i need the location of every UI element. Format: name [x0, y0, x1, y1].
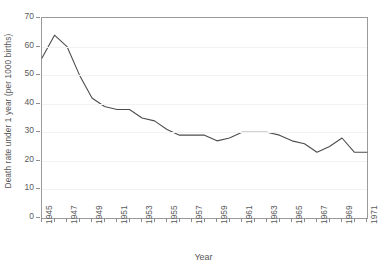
y-tick-label: 30 [14, 126, 34, 135]
y-tick-mark [36, 217, 40, 218]
gridline [42, 47, 367, 48]
y-tick-label: 70 [14, 12, 34, 21]
x-axis-title: Year [41, 252, 366, 262]
x-tick-mark [191, 218, 192, 222]
y-tick-label: 0 [14, 212, 34, 221]
x-tick-label: 1951 [120, 205, 128, 224]
y-tick-mark [36, 131, 40, 132]
x-tick-label: 1961 [245, 205, 253, 224]
x-tick-label: 1955 [170, 205, 178, 224]
y-tick-label: 10 [14, 183, 34, 192]
x-tick-label: 1959 [220, 205, 228, 224]
x-tick-mark [141, 218, 142, 222]
y-axis-title-label: Death rate under 1 year (per 1000 births… [3, 34, 13, 189]
plot-area [41, 17, 368, 219]
x-tick-mark [266, 218, 267, 222]
x-tick-mark [291, 218, 292, 222]
x-tick-mark [166, 218, 167, 222]
series-line-death-rate [42, 18, 367, 218]
series-polyline [42, 35, 367, 152]
x-tick-mark [341, 218, 342, 222]
gridline [42, 189, 367, 190]
x-tick-label: 1965 [295, 205, 303, 224]
infant-mortality-line-chart: Death rate under 1 year (per 1000 births… [0, 0, 378, 268]
x-tick-label: 1963 [270, 205, 278, 224]
x-tick-mark [41, 218, 42, 222]
x-tick-mark [91, 218, 92, 222]
x-tick-label: 1957 [195, 205, 203, 224]
x-tick-label: 1967 [320, 205, 328, 224]
y-tick-label: 60 [14, 41, 34, 50]
plot-inner [42, 18, 367, 218]
x-tick-mark [216, 218, 217, 222]
x-tick-label: 1953 [145, 205, 153, 224]
gridline [42, 132, 367, 133]
y-tick-mark [36, 46, 40, 47]
y-tick-label: 20 [14, 155, 34, 164]
x-tick-label: 1969 [345, 205, 353, 224]
x-tick-label: 1947 [70, 205, 78, 224]
x-tick-mark [66, 218, 67, 222]
y-tick-mark [36, 103, 40, 104]
x-tick-label: 1945 [45, 205, 53, 224]
gridline [42, 75, 367, 76]
y-tick-mark [36, 17, 40, 18]
y-tick-mark [36, 160, 40, 161]
y-axis-tick-labels: 010203040506070 [14, 0, 34, 268]
x-tick-label: 1949 [95, 205, 103, 224]
y-tick-label: 40 [14, 98, 34, 107]
y-tick-label: 50 [14, 69, 34, 78]
x-tick-mark [316, 218, 317, 222]
x-tick-mark [366, 218, 367, 222]
x-tick-mark [241, 218, 242, 222]
x-tick-label: 1971 [370, 205, 378, 224]
y-tick-mark [36, 188, 40, 189]
gridline [42, 104, 367, 105]
y-tick-mark [36, 74, 40, 75]
x-axis-tick-labels: 1945194719491951195319551957195919611963… [41, 224, 366, 250]
x-tick-mark [116, 218, 117, 222]
gridline [42, 161, 367, 162]
